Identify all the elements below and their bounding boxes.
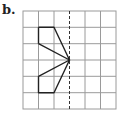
symmetry-grid-diagram	[0, 0, 121, 115]
